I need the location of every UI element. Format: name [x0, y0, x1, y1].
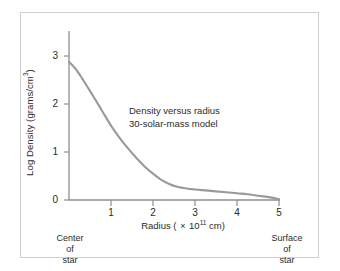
- x-axis-title-suffix: cm): [206, 220, 224, 231]
- figure-root: 0 1 2 3 1 2 3 4 5 Log Density (grams/cm3…: [0, 0, 340, 271]
- y-axis-title-exponent: 3: [22, 72, 29, 76]
- y-tick-label-2: 2: [44, 98, 58, 109]
- y-axis-title: Log Density (grams/cm3): [24, 43, 35, 203]
- y-tick-label-3: 3: [44, 50, 58, 61]
- annotation-line-2: 30-solar-mass model: [129, 117, 220, 130]
- y-tick-label-0: 0: [44, 194, 58, 205]
- y-axis-ticks: [64, 56, 69, 200]
- right-caption-line-3: star: [255, 255, 319, 266]
- left-caption-line-1: Center: [38, 233, 102, 244]
- y-axis-title-suffix: ): [24, 69, 35, 72]
- density-profile-curve: [69, 62, 279, 199]
- annotation-line-1: Density versus radius: [129, 104, 220, 117]
- y-tick-label-1: 1: [44, 146, 58, 157]
- x-axis-title-mantissa: 10: [186, 220, 199, 231]
- left-caption-line-2: of: [38, 244, 102, 255]
- x-tick-label-4: 4: [228, 207, 246, 218]
- x-tick-label-1: 1: [102, 207, 120, 218]
- x-axis-title: Radius ( × 1011 cm): [108, 220, 258, 231]
- x-axis-title-prefix: Radius (: [141, 220, 179, 231]
- right-caption-line-1: Surface: [255, 233, 319, 244]
- left-caption-line-3: star: [38, 255, 102, 266]
- chart-annotation: Density versus radius 30-solar-mass mode…: [129, 104, 220, 130]
- x-tick-label-2: 2: [144, 207, 162, 218]
- plot-area: 0 1 2 3 1 2 3 4 5 Log Density (grams/cm3…: [0, 0, 340, 271]
- x-axis-right-endpoint-caption: Surface of star: [255, 233, 319, 266]
- x-tick-label-3: 3: [186, 207, 204, 218]
- y-axis-title-text: Log Density (grams/cm: [24, 76, 35, 176]
- right-caption-line-2: of: [255, 244, 319, 255]
- x-axis-left-endpoint-caption: Center of star: [38, 233, 102, 266]
- x-axis-ticks: [111, 200, 279, 206]
- x-tick-label-5: 5: [270, 207, 288, 218]
